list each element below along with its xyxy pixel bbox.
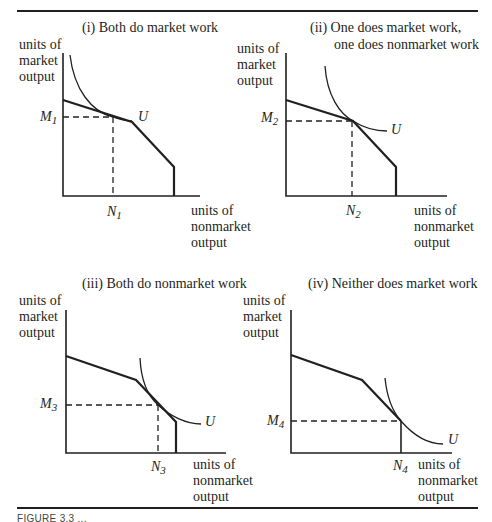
- panel-i-axes: [63, 53, 200, 196]
- panel-iii-graph: [66, 310, 226, 453]
- panel-ii-axes: [286, 53, 447, 196]
- figure-caption-partial: FIGURE 3.3 ...: [17, 513, 87, 522]
- panel-iv-graph: [291, 310, 452, 453]
- panel-iv-indifference-curve: [385, 378, 443, 444]
- panel-ii-graph: [286, 53, 447, 196]
- panel-ii-indifference-curve: [325, 66, 387, 131]
- panel-i-graph: [63, 53, 200, 196]
- panel-iii-axes: [66, 310, 226, 453]
- panel-ii-production-frontier: [286, 100, 396, 196]
- panel-iv-axes: [291, 310, 452, 453]
- panel-iv-production-frontier: [291, 355, 401, 421]
- panel-iii-indifference-curve: [140, 358, 201, 424]
- panel-i-production-frontier: [63, 100, 174, 196]
- diagram-graphics: [0, 0, 492, 522]
